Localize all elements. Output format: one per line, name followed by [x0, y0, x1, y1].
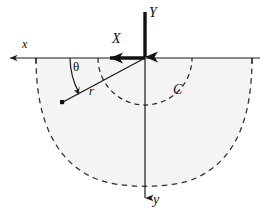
contour-label-c: C — [173, 83, 182, 97]
figure-container: x X Y y θ r C — [0, 0, 266, 214]
x-vector-label: X — [112, 32, 121, 46]
theta-angle-label: θ — [73, 60, 79, 73]
radius-label: r — [89, 85, 94, 97]
diagram-canvas — [0, 0, 266, 214]
y-vector-label: Y — [149, 6, 157, 20]
shaded-region — [36, 58, 252, 186]
radius-endpoint-dot — [60, 100, 64, 104]
y-axis-label: y — [153, 193, 159, 207]
x-axis-label: x — [22, 38, 27, 50]
